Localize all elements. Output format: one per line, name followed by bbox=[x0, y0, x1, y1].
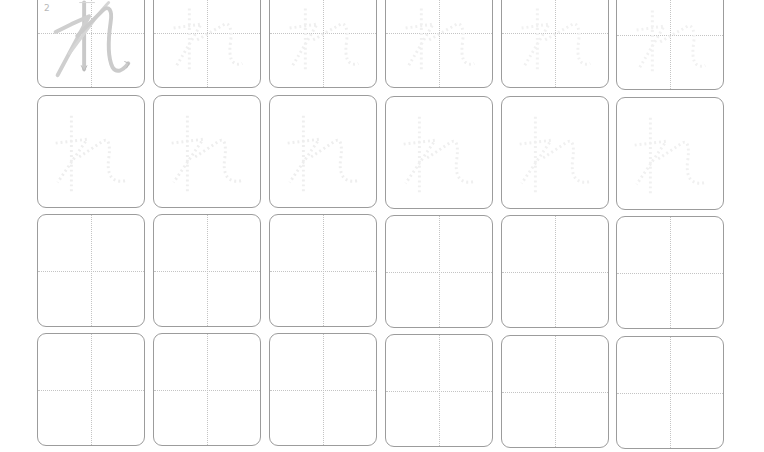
stroke-number-label: 2 bbox=[44, 3, 50, 13]
trace-character-icon bbox=[386, 0, 492, 87]
practice-box-r1c4[interactable] bbox=[385, 0, 493, 88]
practice-box-r2c2[interactable] bbox=[153, 95, 261, 208]
horizontal-guide bbox=[270, 271, 376, 272]
trace-character-icon bbox=[38, 96, 144, 207]
practice-box-r2c6[interactable] bbox=[616, 97, 724, 210]
practice-box-r2c1[interactable] bbox=[37, 95, 145, 208]
practice-box-r4c5[interactable] bbox=[501, 335, 609, 448]
writing-practice-sheet: 2 bbox=[0, 0, 764, 452]
practice-box-r3c6[interactable] bbox=[616, 216, 724, 329]
horizontal-guide bbox=[502, 392, 608, 393]
horizontal-guide bbox=[386, 391, 492, 392]
trace-character-icon bbox=[502, 97, 608, 208]
horizontal-guide bbox=[270, 390, 376, 391]
practice-box-r3c2[interactable] bbox=[153, 214, 261, 327]
practice-box-r4c3[interactable] bbox=[269, 333, 377, 446]
horizontal-guide bbox=[502, 272, 608, 273]
practice-box-r1c6[interactable] bbox=[616, 0, 724, 90]
practice-box-r3c5[interactable] bbox=[501, 215, 609, 328]
practice-box-r4c1[interactable] bbox=[37, 333, 145, 446]
trace-character-icon bbox=[270, 96, 376, 207]
practice-box-r3c1[interactable] bbox=[37, 214, 145, 327]
practice-box-r1c5[interactable] bbox=[501, 0, 609, 88]
stroke-order-diagram-icon bbox=[38, 0, 144, 87]
horizontal-guide bbox=[386, 272, 492, 273]
horizontal-guide bbox=[154, 390, 260, 391]
practice-box-r2c3[interactable] bbox=[269, 95, 377, 208]
practice-box-r2c5[interactable] bbox=[501, 96, 609, 209]
trace-character-icon bbox=[617, 98, 723, 209]
practice-box-r2c4[interactable] bbox=[385, 96, 493, 209]
horizontal-guide bbox=[617, 393, 723, 394]
trace-character-icon bbox=[154, 0, 260, 87]
practice-box-r4c6[interactable] bbox=[616, 336, 724, 449]
practice-box-r1c2[interactable] bbox=[153, 0, 261, 88]
horizontal-guide bbox=[38, 271, 144, 272]
practice-box-r4c2[interactable] bbox=[153, 333, 261, 446]
practice-box-r1c1[interactable]: 2 bbox=[37, 0, 145, 88]
practice-box-r3c4[interactable] bbox=[385, 215, 493, 328]
trace-character-icon bbox=[502, 0, 608, 87]
horizontal-guide bbox=[154, 271, 260, 272]
trace-character-icon bbox=[270, 0, 376, 87]
trace-character-icon bbox=[154, 96, 260, 207]
trace-character-icon bbox=[386, 97, 492, 208]
practice-box-r1c3[interactable] bbox=[269, 0, 377, 88]
practice-box-r4c4[interactable] bbox=[385, 334, 493, 447]
practice-box-r3c3[interactable] bbox=[269, 214, 377, 327]
horizontal-guide bbox=[38, 390, 144, 391]
horizontal-guide bbox=[617, 273, 723, 274]
trace-character-icon bbox=[617, 0, 723, 89]
